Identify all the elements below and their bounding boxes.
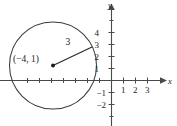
x-tick-label-3: 3 — [145, 85, 150, 95]
x-tick-label-1: 1 — [121, 85, 126, 95]
y-tick-label-3: 3 — [95, 40, 100, 50]
x-axis-arrowhead — [160, 77, 167, 84]
x-axis-name-label: x — [167, 76, 172, 86]
y-tick-label-neg-1: −1 — [96, 88, 106, 98]
y-tick-label-neg-2: −2 — [96, 100, 106, 110]
y-tick-label-1: 1 — [95, 64, 100, 74]
x-tick-label-2: 2 — [133, 85, 138, 95]
figure-container: (−4, 1) 3 x y 1 2 3 4 3 2 1 −1 −2 — [0, 0, 177, 126]
y-tick-label-4: 4 — [95, 28, 100, 38]
center-coordinate-label: (−4, 1) — [13, 54, 39, 65]
coordinate-plane-figure: (−4, 1) 3 x y 1 2 3 4 3 2 1 −1 −2 — [0, 0, 177, 126]
radius-segment — [53, 47, 92, 66]
center-point-marker — [51, 64, 55, 68]
radius-length-label: 3 — [66, 37, 71, 47]
y-tick-label-2: 2 — [95, 52, 100, 62]
y-axis-name-label: y — [107, 0, 112, 10]
